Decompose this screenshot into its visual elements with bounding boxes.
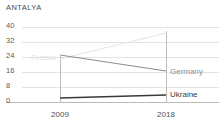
series-label-ukraine: Ukraine (170, 90, 198, 99)
xtick-label-2009: 2009 (51, 110, 69, 119)
xtick-label-2018: 2018 (157, 110, 175, 119)
series-label-russia: Russia (31, 53, 55, 62)
series-line-ukraine (60, 95, 166, 98)
plot-area: 40 32 24 16 8 0 Russia Germany Ukraine 2… (0, 0, 219, 129)
chart-container: ANTALYA 40 32 24 16 8 0 Russia Germany U… (0, 0, 219, 129)
series-label-germany: Germany (170, 67, 203, 76)
series-line-germany (60, 55, 166, 71)
series-layer (0, 0, 219, 129)
series-line-russia (60, 33, 166, 59)
